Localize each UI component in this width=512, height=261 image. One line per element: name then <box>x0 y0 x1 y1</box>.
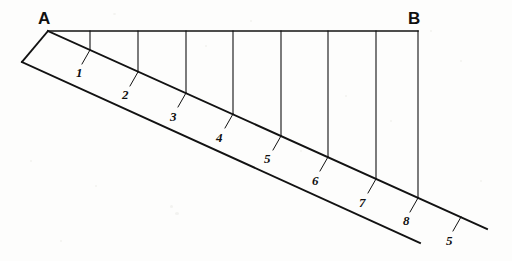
station-label-0: 1 <box>76 66 83 79</box>
vertex-label-A: A <box>38 10 50 27</box>
noise-speck-12 <box>95 185 97 187</box>
station-tick-3 <box>225 114 233 128</box>
station-ticks-group <box>82 50 461 231</box>
station-tick-0 <box>82 50 90 64</box>
noise-speck-6 <box>390 120 392 122</box>
station-tick-2 <box>178 93 186 107</box>
noise-speck-10 <box>175 212 179 215</box>
left-end-cap <box>22 31 48 62</box>
noise-speck-11 <box>345 95 347 97</box>
noise-speck-13 <box>430 30 432 32</box>
station-tick-4 <box>273 136 281 150</box>
station-label-1: 2 <box>122 88 129 101</box>
station-tick-8 <box>453 217 461 231</box>
station-tick-6 <box>368 179 376 193</box>
noise-speck-2 <box>300 150 302 152</box>
station-label-4: 5 <box>264 152 271 165</box>
noise-speck-7 <box>250 20 252 22</box>
station-tick-5 <box>320 157 328 171</box>
upper-diagonal-line <box>48 31 487 229</box>
station-tick-1 <box>130 72 138 86</box>
noise-speck-9 <box>480 180 482 182</box>
diagram-canvas: AB 123456785 <box>0 0 512 261</box>
station-label-3: 4 <box>216 131 223 144</box>
lower-parallel-line <box>22 62 420 243</box>
noise-speck-4 <box>60 240 62 242</box>
station-label-8: 5 <box>446 234 453 247</box>
geometry-figure <box>0 0 512 261</box>
station-label-5: 6 <box>312 174 319 187</box>
diagonal-lines-group <box>22 31 487 243</box>
station-label-6: 7 <box>359 196 366 209</box>
vertex-label-B: B <box>408 10 420 27</box>
noise-speck-8 <box>30 160 32 162</box>
noise-speck-1 <box>205 45 207 47</box>
station-label-2: 3 <box>170 110 177 123</box>
noise-speck-3 <box>170 205 173 208</box>
station-tick-7 <box>410 198 418 212</box>
noise-speck-5 <box>460 60 462 62</box>
noise-speck-0 <box>113 13 116 15</box>
station-label-7: 8 <box>403 214 410 227</box>
